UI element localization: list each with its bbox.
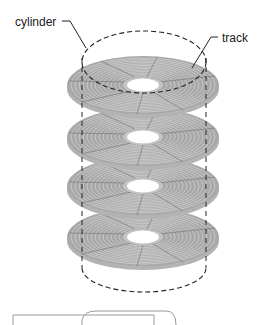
track-leader-line: [192, 37, 218, 68]
cylinder-leader-line: [62, 21, 86, 48]
disk-diagram: cylinder track: [0, 0, 262, 325]
track-label: track: [222, 32, 248, 44]
cylinder-label: cylinder: [15, 16, 56, 28]
platter-1: [67, 56, 219, 118]
diagram-canvas: [0, 0, 262, 325]
cylinder-bottom-outline: [82, 268, 206, 292]
bottom-rounded-box-outline: [82, 311, 176, 325]
